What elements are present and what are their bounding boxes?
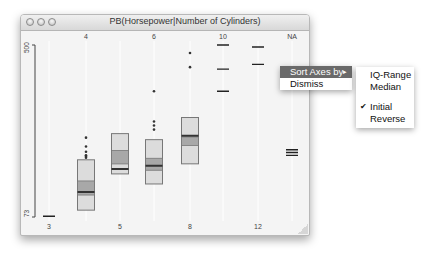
boxplot-chart[interactable]: 50073345681012NA <box>21 31 309 235</box>
window-title: PB(Horsepower|Number of Cylinders) <box>21 16 309 26</box>
submenu-item-reverse[interactable]: Reverse <box>356 113 414 125</box>
box-inner-8 <box>182 137 199 145</box>
outlier-point <box>153 120 156 123</box>
submenu-item-label: Median <box>370 81 401 92</box>
y-axis-min-label: 73 <box>23 209 30 217</box>
menu-item-label: Sort Axes by <box>290 66 343 77</box>
submenu-item-label: Initial <box>370 101 392 112</box>
outlier-point <box>153 90 156 93</box>
outlier-point <box>153 128 156 131</box>
submenu-item-label: Reverse <box>370 113 405 124</box>
y-axis-range-bracket <box>32 45 35 217</box>
titlebar[interactable]: PB(Horsepower|Number of Cylinders) <box>21 15 309 31</box>
menu-item-label: Dismiss <box>290 78 323 89</box>
category-label-12: 12 <box>254 223 262 230</box>
submenu-item-median[interactable]: Median <box>356 81 414 93</box>
resize-handle[interactable] <box>298 224 308 234</box>
submenu-item-initial[interactable]: ✔ Initial <box>356 101 414 113</box>
sort-submenu: IQ-Range Median ✔ Initial Reverse <box>356 67 414 128</box>
checkmark-icon: ✔ <box>360 101 367 113</box>
outlier-point <box>189 52 192 55</box>
submenu-item-label: IQ-Range <box>370 69 411 80</box>
category-label-5: 5 <box>118 223 122 230</box>
box-inner-5 <box>112 151 129 164</box>
category-label-3: 3 <box>47 223 51 230</box>
outlier-point <box>85 150 88 153</box>
outlier-point <box>85 145 88 148</box>
outlier-point <box>153 124 156 127</box>
submenu-item-iq-range[interactable]: IQ-Range <box>356 69 414 81</box>
category-label-NA: NA <box>287 33 297 40</box>
menu-item-dismiss[interactable]: Dismiss <box>280 78 352 90</box>
plot-window: PB(Horsepower|Number of Cylinders) 50073… <box>20 14 310 236</box>
category-label-6: 6 <box>152 33 156 40</box>
box-inner-6 <box>146 158 163 170</box>
y-axis-max-label: 500 <box>23 42 30 53</box>
category-label-4: 4 <box>84 33 88 40</box>
submenu-arrow-icon: ▸ <box>343 66 347 78</box>
category-label-8: 8 <box>188 223 192 230</box>
outlier-point <box>85 136 88 139</box>
outlier-point <box>85 154 88 157</box>
context-menu: Sort Axes by ▸ Dismiss <box>280 66 352 90</box>
menu-item-sort-axes-by[interactable]: Sort Axes by ▸ <box>280 66 352 78</box>
boxplot-canvas[interactable]: 50073345681012NA <box>21 31 309 235</box>
outlier-point <box>189 66 192 69</box>
category-label-10: 10 <box>219 33 227 40</box>
menu-separator <box>356 93 414 101</box>
